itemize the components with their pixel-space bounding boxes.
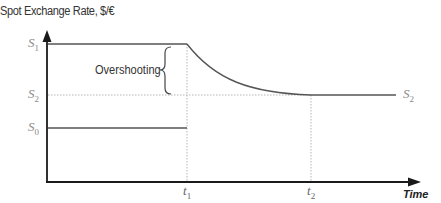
s0-label: S0 xyxy=(28,119,39,137)
y-axis-arrow-icon xyxy=(43,30,52,42)
t1-label: t1 xyxy=(183,183,191,201)
s2-right-label: S2 xyxy=(403,86,414,104)
exchange-rate-path xyxy=(187,44,396,95)
s1-label: S1 xyxy=(28,35,39,53)
y-axis-label: Spot Exchange Rate, $/€ xyxy=(0,4,114,18)
overshooting-label: Overshooting xyxy=(95,63,161,77)
overshooting-brace xyxy=(160,47,171,94)
x-axis-label: Time xyxy=(403,188,428,200)
t2-label: t2 xyxy=(307,183,315,201)
s2-label: S2 xyxy=(28,86,39,104)
diagram-canvas xyxy=(0,0,441,203)
x-axis-arrow-icon xyxy=(408,178,421,187)
